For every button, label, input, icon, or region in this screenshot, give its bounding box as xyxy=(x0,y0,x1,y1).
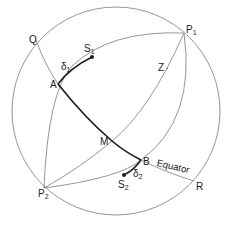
star-s1-point xyxy=(90,55,94,59)
label-q: Q xyxy=(29,35,37,45)
star-s2-point xyxy=(122,173,126,177)
label-m: M xyxy=(100,137,108,147)
label-p2: P2 xyxy=(38,189,49,200)
label-b: B xyxy=(143,157,150,167)
equator-arc-ab xyxy=(58,84,141,160)
label-s1: S1 xyxy=(84,44,95,55)
label-p1: P1 xyxy=(186,25,197,36)
label-a: A xyxy=(50,80,57,90)
label-r: R xyxy=(196,182,203,192)
label-s2: S2 xyxy=(118,180,129,191)
label-z: Z xyxy=(158,63,164,73)
sphere-outline xyxy=(12,7,220,215)
zenith-tick xyxy=(166,68,168,69)
label-delta2: δ2 xyxy=(133,169,142,180)
label-delta1: δ1 xyxy=(61,62,70,73)
